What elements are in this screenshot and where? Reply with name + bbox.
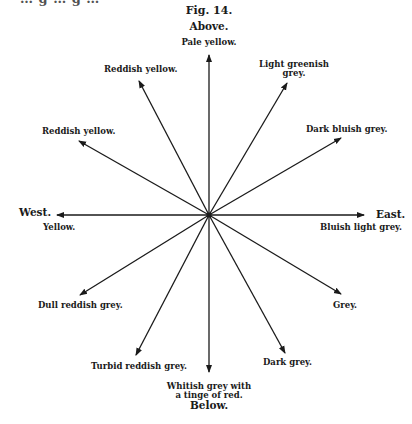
direction-east-label: East. (376, 209, 405, 219)
direction-above-label: Above. (190, 21, 229, 31)
arrow-wsw (80, 215, 209, 295)
direction-below-label: Below. (190, 400, 228, 410)
label-nnw-reddish-yellow: Reddish yellow. (104, 64, 177, 74)
label-west-yellow: Yellow. (43, 222, 75, 232)
arrow-star-diagram (0, 0, 412, 424)
arrow-ssw (136, 215, 209, 355)
center-point (207, 213, 212, 218)
label-ene-dark-bluish-grey: Dark bluish grey. (306, 124, 387, 134)
arrow-sse (209, 215, 285, 353)
label-ese-grey: Grey. (333, 300, 357, 310)
label-wnw-reddish-yellow: Reddish yellow. (42, 126, 115, 136)
label-nne-line2: grey. (283, 68, 306, 78)
figure-title: Fig. 14. (186, 6, 232, 16)
label-east-bluish-light-grey: Bluish light grey. (320, 222, 402, 232)
label-up-pale-yellow: Pale yellow. (181, 37, 236, 47)
label-sse-dark-grey: Dark grey. (263, 357, 312, 367)
arrow-ene (209, 138, 341, 215)
label-ssw-turbid-reddish-grey: Turbid reddish grey. (91, 361, 187, 371)
arrow-nne (209, 83, 287, 215)
label-wsw-dull-reddish-grey: Dull reddish grey. (38, 300, 123, 310)
direction-west-label: West. (19, 207, 51, 217)
